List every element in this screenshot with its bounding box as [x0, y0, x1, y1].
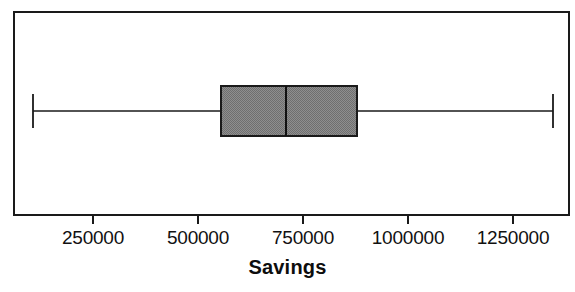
tick-label-1000000: 1000000	[372, 227, 445, 249]
boxplot-series-savings	[33, 86, 553, 136]
box-iqr	[221, 86, 357, 136]
x-axis-title: Savings	[0, 256, 575, 279]
tick-label-500000: 500000	[167, 227, 229, 249]
tick-label-250000: 250000	[62, 227, 124, 249]
boxplot-figure: 250000 500000 750000 1000000 1250000 Sav…	[0, 0, 575, 292]
x-axis-ticks	[93, 216, 513, 224]
tick-label-750000: 750000	[272, 227, 334, 249]
tick-label-1250000: 1250000	[477, 227, 550, 249]
